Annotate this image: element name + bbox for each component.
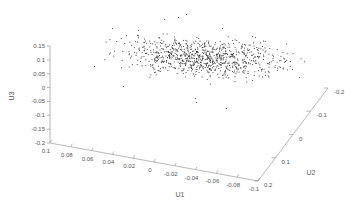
y-tick-label: 0.2	[264, 182, 273, 188]
z-tick-label: 0.15	[33, 43, 45, 49]
x-tick-label: 0.04	[103, 159, 115, 165]
z-tick-label: -0.2	[35, 140, 46, 146]
z-axis-label: U3	[8, 91, 15, 100]
y-tick-label: -0.2	[334, 89, 345, 95]
x-tick-label: -0.02	[164, 171, 178, 177]
z-tick-label: 0	[42, 85, 46, 91]
y-axis-label: U2	[307, 169, 316, 176]
x-tick-label: -0.08	[226, 182, 240, 188]
x-tick-label: 0.08	[61, 152, 73, 158]
z-tick-label: -0.15	[31, 126, 45, 132]
y-tick-label: 0	[299, 136, 303, 142]
data-points	[94, 14, 305, 109]
x-tick-label: 0.02	[123, 163, 135, 169]
x-tick-label: 0.06	[82, 156, 94, 162]
x-tick-label: -0.06	[206, 178, 220, 184]
x-tick-label: 0.1	[42, 148, 51, 154]
z-tick-label: -0.05	[31, 98, 45, 104]
x-tick-label: -0.04	[185, 175, 199, 181]
x-tick-label: 0	[148, 167, 152, 173]
y-tick-label: 0.1	[282, 159, 291, 165]
y-tick-label: -0.1	[317, 112, 328, 118]
z-tick-label: 0.1	[37, 57, 46, 63]
x-axis-label: U1	[176, 191, 185, 198]
z-tick-label: 0.05	[33, 71, 45, 77]
axes: 0.150.10.050-0.05-0.1-0.15-0.2U30.10.080…	[8, 43, 345, 198]
scatter-3d-chart: 0.150.10.050-0.05-0.1-0.15-0.2U30.10.080…	[0, 0, 363, 204]
z-tick-label: -0.1	[35, 112, 46, 118]
x-tick-label: -0.1	[249, 186, 260, 192]
